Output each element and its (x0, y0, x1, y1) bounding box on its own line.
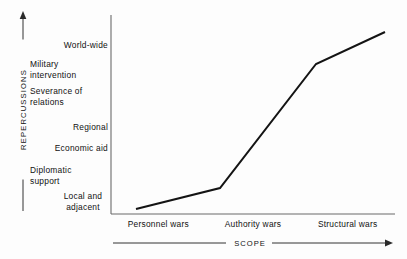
y-axis-category-labels: World-wide Military intervention Severan… (30, 0, 108, 259)
x-label-authority-wars: Authority wars (206, 218, 301, 234)
y-label-regional: Regional (30, 122, 108, 133)
y-axis-title: REPERCUSSIONS (18, 40, 29, 180)
y-label-diplomatic-support: Diplomatic support (30, 165, 108, 186)
data-series-line (136, 32, 385, 209)
x-axis-title: SCOPE (228, 239, 272, 248)
y-label-world-wide: World-wide (30, 40, 108, 51)
y-label-military-intervention: Military intervention (30, 59, 108, 80)
repercussions-axis-arrowhead-icon (20, 11, 27, 19)
y-label-severance-of-relations: Severance of relations (30, 86, 108, 107)
y-label-economic-aid: Economic aid (30, 143, 108, 154)
y-label-local-and-adjacent: Local and adjacent (44, 191, 122, 212)
x-label-personnel-wars: Personnel wars (111, 218, 206, 234)
x-label-structural-wars: Structural wars (300, 218, 395, 234)
figure-canvas: World-wide Military intervention Severan… (0, 0, 407, 259)
x-axis-category-labels: Personnel wars Authority wars Structural… (111, 218, 395, 234)
scope-axis-arrowhead-icon (385, 240, 393, 247)
